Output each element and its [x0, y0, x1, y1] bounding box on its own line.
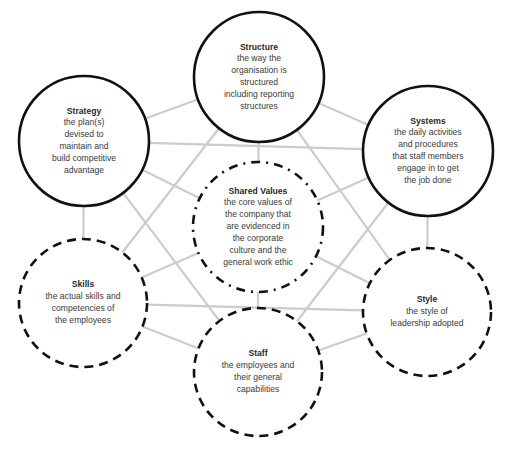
- node-description-structure: the way the organisation is structured i…: [204, 53, 315, 113]
- node-structure: Structure the way the organisation is st…: [204, 42, 315, 113]
- node-title-structure: Structure: [204, 42, 315, 54]
- node-style: Style the style of leadership adopted: [373, 294, 482, 330]
- node-skills: Skills the actual skills and competencie…: [29, 279, 138, 327]
- node-description-strategy: the plan(s) devised to maintain and buil…: [29, 117, 140, 177]
- node-title-shared-values: Shared Values: [203, 186, 314, 198]
- node-description-skills: the actual skills and competencies of th…: [29, 291, 138, 327]
- node-strategy: Strategy the plan(s) devised to maintain…: [29, 106, 140, 177]
- node-systems: Systems the daily activities and procedu…: [373, 116, 484, 187]
- mckinsey-7s-diagram: Structure the way the organisation is st…: [0, 0, 507, 449]
- node-title-skills: Skills: [29, 279, 138, 291]
- node-shared-values: Shared Values the core values of the com…: [203, 186, 314, 269]
- node-description-systems: the daily activities and procedures that…: [373, 127, 484, 187]
- node-title-systems: Systems: [373, 116, 484, 128]
- node-staff: Staff the employees and their general ca…: [204, 348, 313, 396]
- node-description-staff: the employees and their general capabili…: [204, 360, 313, 396]
- node-title-staff: Staff: [204, 348, 313, 360]
- node-title-strategy: Strategy: [29, 106, 140, 118]
- node-description-shared-values: the core values of the company that are …: [203, 197, 314, 268]
- node-title-style: Style: [373, 294, 482, 306]
- node-description-style: the style of leadership adopted: [373, 306, 482, 330]
